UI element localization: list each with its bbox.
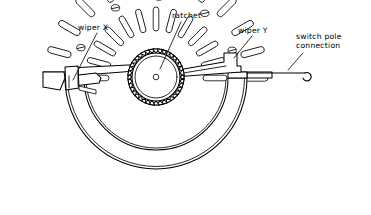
label-wiper-y: wiper Y [238, 26, 268, 35]
inner-pin [153, 7, 159, 31]
inner-pin [203, 75, 227, 81]
label-switch-pole-line1: switch pole [296, 32, 342, 41]
rotary-switch-diagram: wiper X ratchet wiper Y switch pole conn… [0, 0, 371, 215]
diagram-canvas: wiper X ratchet wiper Y switch pole conn… [0, 0, 371, 215]
label-wiper-x: wiper X [78, 23, 108, 32]
label-switch-pole-line2: connection [296, 41, 340, 50]
ratchet-wheel [128, 49, 184, 105]
label-ratchet: ratchet [172, 11, 201, 20]
